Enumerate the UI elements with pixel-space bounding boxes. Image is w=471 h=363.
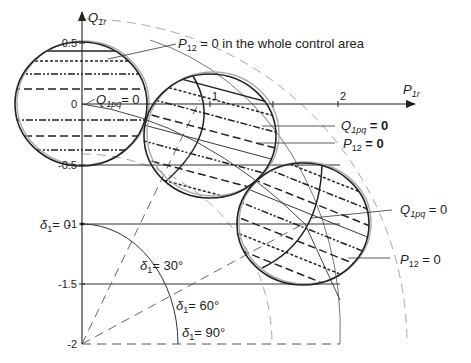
y-axis-label: Q1r [88,10,107,27]
svg-text:0: 0 [71,98,77,110]
angle-label-30: δ1= 30° [140,258,183,275]
q1pq-zero-curve [82,104,340,300]
svg-text:-1.5: -1.5 [58,278,77,290]
angle-label-60: δ1= 60° [176,298,219,315]
svg-text:2: 2 [340,90,346,102]
svg-text:-0.5: -0.5 [58,159,77,171]
circle-3 [230,140,380,322]
reference-lines [82,165,340,344]
annotation-p12-whole-area: P12 = 0 in the whole control area [178,36,365,53]
annotation-circle2-p12: P12 = 0 [343,136,384,153]
svg-text:-2: -2 [67,338,77,350]
annotation-circle3-q1pq: Q1pq = 0 [400,202,447,219]
x-tick-labels: 1 2 [212,90,346,102]
x-axis-label: P1r [403,82,421,99]
annotation-circle2-q1pq: Q1pq = 0 [341,118,388,135]
svg-text:0.5: 0.5 [62,37,77,49]
angle-label-90: δ1= 90° [182,325,225,342]
svg-text:1: 1 [212,90,218,102]
angle-label-0: δ1= 0 [40,217,71,234]
y-tick-labels: 0.5 0 -0.5 -1 -1.5 -2 [58,37,77,350]
control-area-diagram: Q1r P1r 0.5 0 -0.5 -1 -1.5 -2 1 2 P12 = … [0,0,471,363]
annotation-origin-q1pq: Q1pq= 0 [96,92,140,109]
annotation-circle3-p12: P12 = 0 [400,252,441,269]
boundary-arcs [82,19,407,344]
